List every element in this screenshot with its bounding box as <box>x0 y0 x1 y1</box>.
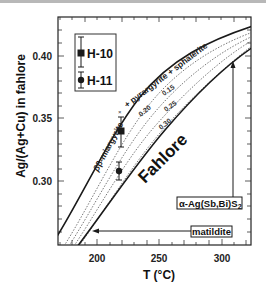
y-tick-035: 0.35 <box>33 113 53 124</box>
data-point-h10: × <box>118 109 125 147</box>
x-tick-300: 300 <box>214 253 231 264</box>
chart: 200 250 300 0.40 0.35 0.30 T (°C) Ag/(Ag… <box>0 0 266 295</box>
y-tick-040: 0.40 <box>33 51 53 62</box>
x-tick-200: 200 <box>89 253 106 264</box>
legend-circle-icon <box>78 77 84 83</box>
label-pyrargyrite-sphalerite: + pyrargyrite + sphalerite <box>122 40 209 109</box>
y-tick-030: 0.30 <box>33 176 53 187</box>
legend-label-h10: H-10 <box>87 47 113 61</box>
iso-label-0.30: 0.30 <box>157 117 172 131</box>
bottom-ticks <box>60 239 246 245</box>
top-ticks <box>60 17 246 22</box>
circle-marker-icon <box>116 168 122 174</box>
iso-label-0.20: 0.20 <box>137 104 152 118</box>
legend-square-icon <box>78 50 85 57</box>
matildite-label: matildite <box>192 226 231 237</box>
arrow-left-icon <box>92 229 99 234</box>
alpha-label-text: α-Ag(Sb,Bi)S <box>179 198 238 209</box>
y-axis-title: Ag/(Ag+Cu) in fahlore <box>14 54 28 178</box>
x-tick-250: 250 <box>151 253 168 264</box>
legend-label-h11: H-11 <box>87 74 113 88</box>
arrow-up-icon <box>231 61 236 68</box>
x-axis-title: T (°C) <box>143 268 175 282</box>
right-ticks <box>245 30 251 232</box>
legend: H-10 H-11 <box>75 34 116 91</box>
iso-label-0.15: 0.15 <box>161 83 176 97</box>
iso-label-0.25: 0.25 <box>163 99 178 113</box>
x-mark: × <box>118 109 122 115</box>
square-marker-icon <box>118 128 125 135</box>
alpha-label: α-Ag(Sb,Bi)S2 <box>179 198 242 211</box>
data-point-h11 <box>116 162 122 180</box>
left-ticks <box>58 30 64 232</box>
alpha-label-subscript: 2 <box>238 203 242 210</box>
